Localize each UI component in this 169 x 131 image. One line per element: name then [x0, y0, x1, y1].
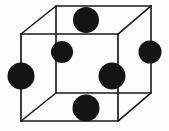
- crystal-structure-figure: [0, 0, 169, 131]
- atom-left-face-center: [8, 63, 35, 90]
- atom-top-face-center: [73, 7, 99, 33]
- atom-front-face-center: [99, 63, 126, 90]
- crystal-lattice-svg: [0, 0, 169, 131]
- atom-right-face-center: [139, 41, 162, 64]
- atom-back-face-center: [51, 41, 73, 63]
- atom-bottom-face-center: [73, 95, 100, 122]
